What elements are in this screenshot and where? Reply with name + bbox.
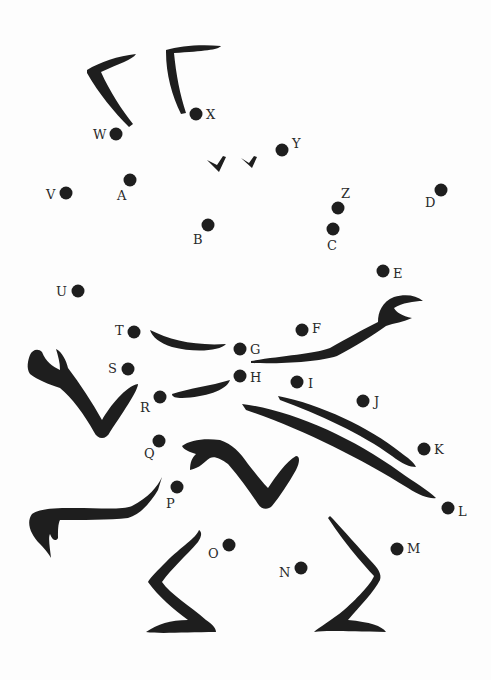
dot-k[interactable]: [418, 443, 431, 456]
dot-label: Q: [144, 446, 155, 461]
dot-m[interactable]: [391, 543, 404, 556]
dot-g[interactable]: [234, 343, 247, 356]
dot-label: F: [312, 321, 321, 336]
dot-label: I: [308, 376, 313, 391]
right-antenna-shape: [166, 45, 221, 114]
dot-u[interactable]: [72, 285, 85, 298]
dot-label: E: [393, 266, 403, 281]
dot-z[interactable]: [332, 202, 345, 215]
dot-i[interactable]: [291, 376, 304, 389]
dot-label: A: [116, 188, 127, 203]
dot-label: O: [208, 546, 219, 561]
right-arm-shape: [251, 295, 423, 363]
dot-a[interactable]: [124, 174, 137, 187]
dot-w[interactable]: [110, 128, 123, 141]
dot-e[interactable]: [377, 265, 390, 278]
drawing-canvas: A B C D E F G H I J K L M N O P Q R S T …: [0, 0, 491, 680]
dot-l[interactable]: [442, 502, 455, 515]
dot-x[interactable]: [190, 108, 203, 121]
dot-label: R: [140, 400, 151, 415]
eyes-shape: [207, 156, 257, 172]
dot-s[interactable]: [122, 363, 135, 376]
dot-r[interactable]: [154, 391, 167, 404]
dot-label: Z: [341, 186, 350, 201]
dot-label: T: [115, 323, 124, 338]
dot-label: K: [434, 442, 444, 457]
right-leg-shape: [314, 516, 386, 632]
left-leg-shape: [146, 530, 216, 633]
dot-f[interactable]: [296, 324, 309, 337]
left-antenna-shape: [87, 54, 136, 127]
dot-label: J: [372, 394, 379, 409]
dot-o[interactable]: [223, 539, 236, 552]
dot-label: D: [425, 195, 435, 210]
dot-label: C: [327, 238, 337, 253]
dot-label: V: [45, 187, 56, 202]
dot-label: P: [166, 496, 175, 511]
dot-label: Y: [291, 136, 301, 151]
dot-label: G: [250, 342, 260, 357]
dot-label: H: [250, 370, 261, 385]
dot-p[interactable]: [171, 481, 184, 494]
lower-left-arm-shape: [29, 477, 162, 558]
dot-label: S: [108, 361, 117, 376]
dot-label: X: [206, 107, 216, 122]
dot-c[interactable]: [327, 223, 340, 236]
dot-h[interactable]: [234, 370, 247, 383]
dot-label: B: [193, 232, 203, 247]
dot-y[interactable]: [276, 144, 289, 157]
body-stripe-upper: [278, 396, 416, 467]
dot-markers: [60, 108, 455, 575]
dot-label: N: [279, 565, 290, 580]
dot-label: U: [56, 284, 67, 299]
chest-lower-arc: [172, 380, 230, 398]
middle-leg-shape: [182, 439, 299, 509]
dot-d[interactable]: [435, 184, 448, 197]
dot-b[interactable]: [202, 219, 215, 232]
dot-j[interactable]: [357, 395, 370, 408]
dot-to-dot-worksheet: A B C D E F G H I J K L M N O P Q R S T …: [0, 0, 491, 680]
dot-n[interactable]: [295, 562, 308, 575]
left-arm-shape: [28, 349, 138, 438]
dot-label: M: [407, 541, 420, 556]
dot-v[interactable]: [60, 187, 73, 200]
dot-label: L: [458, 504, 467, 519]
dot-t[interactable]: [128, 326, 141, 339]
chest-upper-arc: [150, 330, 226, 351]
dot-label: W: [93, 127, 107, 142]
